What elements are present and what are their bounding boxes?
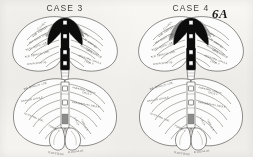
- figure-6a: CASE 3: [0, 0, 253, 157]
- panel-case-4: CASE 4: [128, 0, 253, 157]
- cerebellum-diagram-case-3: CULMEN LOB. SIMPLEX ANT. QUAD. LOB. POST…: [2, 10, 128, 157]
- svg-text:FLOCCULUS: FLOCCULUS: [174, 151, 190, 156]
- svg-text:FLOCCULUS: FLOCCULUS: [68, 149, 84, 154]
- svg-text:FLOCCULUS: FLOCCULUS: [48, 151, 64, 156]
- figure-number-label: 6A: [212, 6, 228, 22]
- cerebellum-diagram-case-4: CULMEN LOB. SIMPLEX ANT. QUAD. LOB. POST…: [128, 10, 253, 157]
- svg-text:FLOCCULUS: FLOCCULUS: [194, 149, 210, 154]
- panel-case-3: CASE 3: [2, 0, 128, 157]
